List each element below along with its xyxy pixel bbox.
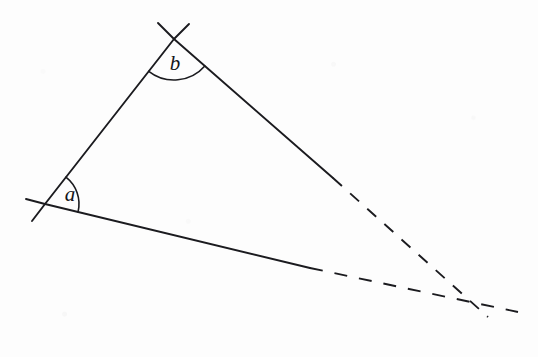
angle-label-a: a [65,182,76,206]
geometry-figure: a b [0,0,538,357]
figure-canvas: a b [0,0,538,357]
figure-background [0,0,538,357]
angle-label-b: b [170,51,181,75]
